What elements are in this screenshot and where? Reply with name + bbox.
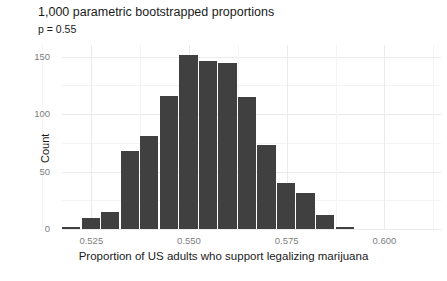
x-axis-title: Proportion of US adults who support lega… <box>0 250 447 262</box>
x-tick-label: 0.525 <box>61 236 121 246</box>
chart-root: 1,000 parametric bootstrapped proportion… <box>0 0 447 281</box>
y-tick-label: 0 <box>14 224 50 234</box>
y-tick-label: 100 <box>14 109 50 119</box>
x-tick-label: 0.575 <box>257 236 317 246</box>
x-tick-label: 0.550 <box>159 236 219 246</box>
axis-labels: 050100150 0.5250.5500.5750.600 <box>0 0 447 281</box>
x-tick-label: 0.600 <box>354 236 414 246</box>
y-tick-label: 150 <box>14 52 50 62</box>
y-tick-label: 50 <box>14 167 50 177</box>
